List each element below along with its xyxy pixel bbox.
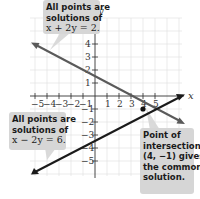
callout-intersection: Point of intersection (4, −1) gives the …: [140, 128, 194, 194]
x-tick-label: 3: [129, 99, 135, 109]
y-tick-label: −1: [81, 104, 94, 114]
callout-equation: x − 2y = 6.: [12, 135, 63, 146]
callout-line-1: All points are solutions of x + 2y = 2.: [43, 0, 100, 34]
y-tick-label: −3: [81, 130, 95, 140]
x-axis-label: x: [188, 90, 194, 101]
y-tick-label: −2: [81, 117, 94, 127]
callout-text: solution.: [143, 172, 191, 183]
callout-text: All points are: [46, 2, 97, 13]
callout-text: the common: [143, 162, 191, 173]
callout-line-2: All points are solutions of x − 2y = 6.: [9, 112, 66, 150]
y-tick-label: −5: [81, 156, 95, 166]
x-tick-label: 2: [117, 99, 123, 109]
y-tick-label: 4: [85, 39, 91, 49]
callout-text: All points are: [12, 114, 63, 125]
x-tick-label: 1: [105, 99, 111, 109]
x-axis: −5 −4 −3 −2 −1 1 2 3 4 5 x: [30, 90, 194, 109]
callout-pointer: [50, 33, 70, 50]
callout-text: Point of: [143, 130, 191, 141]
callout-text: intersection: [143, 141, 191, 152]
y-tick-label: 1: [85, 78, 91, 88]
y-tick-label: 3: [85, 52, 91, 62]
callout-text: (4, −1) gives: [143, 151, 191, 162]
callout-equation: x + 2y = 2.: [46, 23, 97, 34]
intersection-point: [140, 106, 145, 111]
